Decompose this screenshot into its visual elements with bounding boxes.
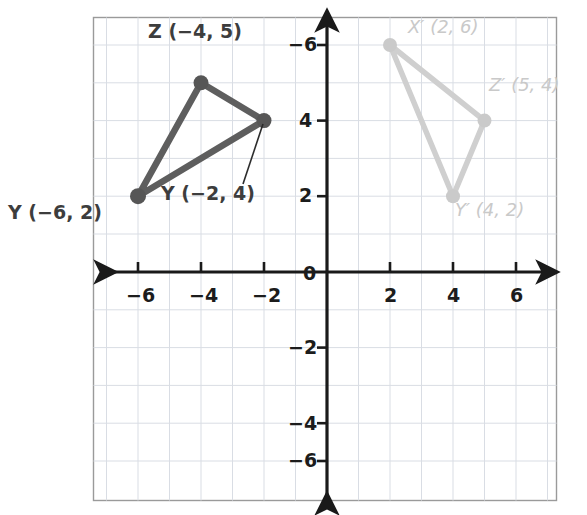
vertex-y-top	[257, 113, 272, 128]
x-tick-label-2: 2	[384, 284, 397, 306]
origin-label: 0	[303, 262, 316, 284]
y-tick-label-neg4: −4	[288, 412, 317, 434]
x-tick-label-neg4: −4	[189, 284, 218, 306]
vertex-z	[194, 75, 209, 90]
label-vertex-y-top: Y (−2, 4)	[161, 182, 255, 204]
y-tick-label-neg6: −6	[288, 449, 317, 471]
plot-area-border	[94, 18, 557, 501]
label-vertex-z-prime: Z′ (5, 4)	[489, 74, 560, 95]
y-tick-label-neg2: −2	[288, 336, 317, 358]
y-tick-label-2: 2	[299, 184, 312, 206]
x-tick-label-neg6: −6	[126, 284, 155, 306]
x-tick-label-6: 6	[510, 284, 523, 306]
label-vertex-x-prime: X′ (2, 6)	[408, 16, 479, 37]
vertex-y-left	[130, 188, 146, 204]
y-tick-label-6: −6	[288, 33, 317, 55]
vertex-z-prime	[478, 114, 492, 128]
x-tick-label-4: 4	[447, 284, 460, 306]
vertex-x-prime	[383, 38, 397, 52]
coordinate-plane-figure: −6 4 2 −2 −4 −6 0 −6 −4 −2 2 4 6 Z (−4, …	[0, 0, 587, 515]
label-vertex-y-prime: Y′ (4, 2)	[455, 199, 524, 220]
x-tick-label-neg2: −2	[252, 284, 281, 306]
y-tick-label-4: 4	[299, 109, 312, 131]
label-vertex-y-left: Y (−6, 2)	[8, 201, 102, 223]
label-vertex-z: Z (−4, 5)	[148, 20, 242, 42]
